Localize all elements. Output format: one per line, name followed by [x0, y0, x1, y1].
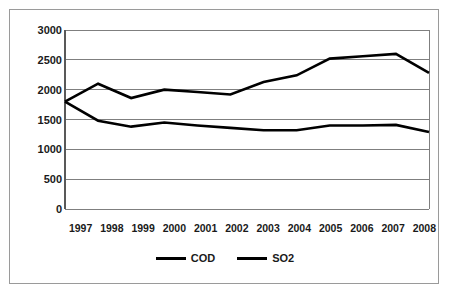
x-tick-label: 2007: [378, 222, 409, 235]
x-tick-label: 2002: [221, 222, 252, 235]
x-tick-label: 1997: [65, 222, 96, 235]
series-line-so2: [65, 102, 429, 132]
legend-item-cod[interactable]: COD: [156, 253, 215, 264]
x-tick-label: 2004: [284, 222, 315, 235]
chart-card: 050010001500200025003000 199719981999200…: [9, 9, 439, 284]
x-tick-label: 2000: [159, 222, 190, 235]
legend-label-cod: COD: [191, 253, 215, 264]
x-tick-label: 2001: [190, 222, 221, 235]
y-tick-label: 500: [16, 174, 62, 185]
legend-line-swatch-icon: [156, 257, 186, 260]
x-tick-label: 2005: [315, 222, 346, 235]
y-tick-label: 3000: [16, 25, 62, 36]
y-tick-label: 1000: [16, 144, 62, 155]
y-tick-label: 1500: [16, 114, 62, 125]
legend-line-swatch-icon: [237, 257, 267, 260]
x-tick-label: 2008: [409, 222, 440, 235]
x-axis-tick-labels: 1997199819992000200120022003200420052006…: [65, 222, 440, 242]
legend-item-so2[interactable]: SO2: [237, 253, 294, 264]
chart-legend: COD SO2: [10, 253, 440, 264]
gridlines: [65, 30, 429, 209]
x-tick-label: 1999: [128, 222, 159, 235]
y-axis-tick-labels: 050010001500200025003000: [14, 10, 62, 285]
chart-canvas: [10, 10, 440, 285]
legend-label-so2: SO2: [272, 253, 294, 264]
y-tick-label: 2500: [16, 54, 62, 65]
x-tick-label: 2003: [253, 222, 284, 235]
data-series-group: [65, 54, 429, 132]
y-tick-label: 2000: [16, 84, 62, 95]
series-line-cod: [65, 54, 429, 102]
plot-area: [10, 10, 438, 283]
x-tick-label: 1998: [96, 222, 127, 235]
y-tick-label: 0: [16, 204, 62, 215]
x-tick-label: 2006: [346, 222, 377, 235]
